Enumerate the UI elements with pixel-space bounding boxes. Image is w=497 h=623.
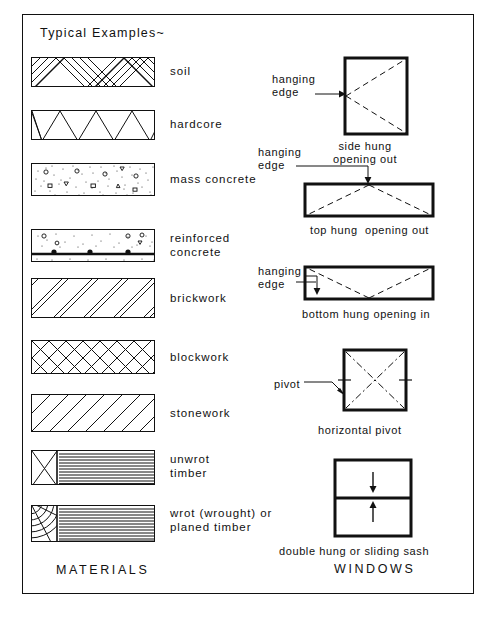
material-swatch-unwrot-timber [31, 450, 155, 485]
material-label-reinforced-concrete: reinforced concrete [170, 231, 230, 259]
leader-label-pivot: pivot [274, 378, 300, 391]
leader-label-side-hung: hanging edge [272, 73, 315, 99]
material-label-blockwork: blockwork [170, 350, 229, 364]
windows-heading: WINDOWS [334, 562, 415, 576]
drawing-sheet: Typical Examples~ [0, 0, 497, 623]
material-label-stonework: stonework [170, 406, 231, 420]
window-caption-horizontal-pivot: horizontal pivot [318, 424, 402, 437]
material-swatch-blockwork [31, 340, 155, 374]
window-diagram-horizontal-pivot [337, 348, 417, 414]
window-caption-top-hung: top hung opening out [310, 224, 429, 237]
material-label-hardcore: hardcore [170, 117, 223, 131]
material-swatch-brickwork [31, 278, 155, 318]
leader-label-top-hung: hanging edge [258, 146, 301, 172]
leader-label-bottom-hung: hanging edge [258, 265, 301, 291]
window-diagram-top-hung [303, 182, 435, 218]
page-title: Typical Examples~ [40, 26, 165, 40]
material-swatch-reinforced-concrete [31, 229, 155, 262]
material-label-brickwork: brickwork [170, 291, 227, 305]
window-caption-double-hung: double hung or sliding sash [279, 545, 429, 558]
material-swatch-mass-concrete [31, 163, 155, 196]
window-diagram-bottom-hung [303, 265, 435, 301]
material-label-wrot-timber: wrot (wrought) or planed timber [170, 506, 272, 534]
material-label-unwrot-timber: unwrot timber [170, 452, 210, 480]
material-swatch-stonework [31, 394, 155, 432]
material-swatch-soil [31, 57, 155, 87]
window-diagram-side-hung [340, 55, 412, 137]
window-diagram-double-hung [333, 458, 413, 538]
window-caption-bottom-hung: bottom hung opening in [302, 308, 430, 321]
material-swatch-hardcore [31, 110, 155, 140]
materials-heading: MATERIALS [56, 563, 149, 577]
leader-line-top-hung [296, 163, 376, 187]
material-label-mass-concrete: mass concrete [170, 172, 256, 186]
material-swatch-wrot-timber [31, 505, 155, 542]
leader-line-bottom-hung [296, 277, 318, 287]
material-label-soil: soil [170, 64, 191, 78]
leader-line-side-hung [315, 88, 347, 100]
leader-line-pivot [304, 378, 348, 398]
